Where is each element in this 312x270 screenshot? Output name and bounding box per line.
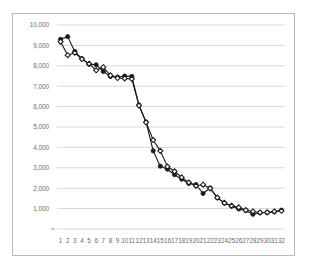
data-point-marker xyxy=(65,53,70,58)
chart-plot-frame: 1,0002,0003,0004,0005,0006,0007,0008,000… xyxy=(12,13,295,256)
data-point-marker xyxy=(151,149,155,153)
data-point-marker xyxy=(94,63,98,67)
data-point-marker xyxy=(66,35,70,39)
line-chart-svg xyxy=(13,14,294,255)
y-axis-tick-label: 7,000 xyxy=(15,83,49,90)
y-axis-tick-label: 10,000 xyxy=(15,21,49,28)
chart-figure: 1,0002,0003,0004,0005,0006,0007,0008,000… xyxy=(0,0,312,270)
data-point-marker xyxy=(201,182,206,187)
data-point-marker xyxy=(158,164,162,168)
y-axis-tick-label: 2,000 xyxy=(15,185,49,192)
y-axis-tick-label: 5,000 xyxy=(15,123,49,130)
data-point-marker xyxy=(201,191,205,195)
y-axis-tick-label: 8,000 xyxy=(15,62,49,69)
y-axis-tick-label: 3,000 xyxy=(15,164,49,171)
y-axis-tick-label: 1,000 xyxy=(15,205,49,212)
y-axis-tick-label: 6,000 xyxy=(15,103,49,110)
y-axis-tick-label: 4,000 xyxy=(15,144,49,151)
x-axis-tick-label: 32 xyxy=(275,237,287,244)
y-axis-tick-label: 9,000 xyxy=(15,42,49,49)
series-line-1 xyxy=(61,37,282,215)
